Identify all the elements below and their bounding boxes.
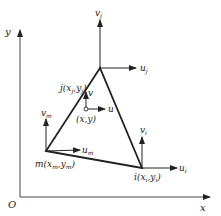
uj-label: uj [140,63,148,75]
ui-label: ui [179,163,187,174]
node-m-label: m(xm,ym) [35,159,76,170]
x-axis-label: x [200,202,206,213]
um-arrow [46,150,80,151]
vj-label: vj [95,8,102,20]
interior-point-label: (x,y) [76,114,97,124]
node-j-label: j(xj,yj) [58,83,87,95]
node-i-label: i(xi,yi) [134,172,161,183]
y-axis-label: y [4,26,11,37]
interior-point-marker [84,107,88,111]
origin-label: O [8,199,16,210]
triangle-element-diagram: O x y vj uj j(xj,yj) vm um m(xm,ym) vi u… [0,0,221,216]
v-label: v [88,88,93,98]
um-label: um [82,145,94,156]
vm-label: vm [41,108,52,119]
vi-label: vi [140,125,147,136]
u-label: u [108,104,114,114]
